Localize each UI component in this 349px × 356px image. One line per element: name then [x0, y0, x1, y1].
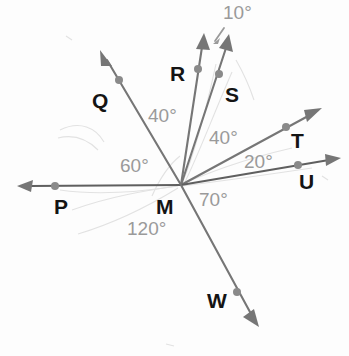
artifact-stroke-14: [166, 344, 174, 346]
artifact-stroke-12: [66, 36, 72, 40]
angle-label-TU: 20°: [244, 152, 273, 171]
ray-U-arrowhead: [325, 154, 341, 166]
ray-Q-arrowhead: [100, 50, 112, 66]
scan-artifacts-group: [58, 36, 328, 346]
ray-W-point-dot: [233, 288, 241, 296]
point-label-W: W: [207, 290, 227, 311]
ray-Q-point-dot: [115, 76, 123, 84]
ray-P-arrowhead: [17, 180, 33, 192]
angle-label-PQ: 60°: [120, 156, 149, 175]
ray-W-arrowhead: [243, 309, 259, 327]
point-label-Q: Q: [92, 90, 108, 111]
angle-label-QR: 40°: [148, 106, 177, 125]
artifact-stroke-5: [60, 186, 178, 193]
ray-P-point-dot: [51, 182, 59, 190]
diagram-svg: [0, 0, 349, 356]
artifact-stroke-2: [58, 137, 98, 150]
ray-R-point-dot: [194, 65, 202, 73]
ray-S-arrowhead: [219, 34, 233, 52]
angle-label-ST: 40°: [209, 128, 238, 147]
ray-R-arrowhead: [196, 33, 210, 50]
geometry-diagram-canvas: P Q R S T U W M 40° 40° 60° 20° 70° 120°…: [0, 0, 349, 356]
ray-U-point-dot: [294, 161, 302, 169]
angle-RS-pointer-group: [213, 28, 224, 44]
ray-T-point-dot: [282, 123, 290, 131]
angle-label-RS: 10°: [223, 3, 252, 22]
artifact-stroke-13: [322, 176, 328, 180]
angle-label-PW: 120°: [127, 219, 166, 238]
ray-T-arrowhead: [304, 108, 322, 122]
ray-P-group: [17, 180, 181, 192]
point-label-M: M: [156, 196, 174, 217]
point-label-R: R: [170, 63, 185, 84]
point-label-U: U: [299, 171, 314, 192]
ray-S-point-dot: [215, 70, 223, 78]
point-label-T: T: [291, 130, 304, 151]
angle-label-UW: 70°: [199, 190, 228, 209]
point-label-P: P: [54, 196, 68, 217]
point-label-S: S: [225, 84, 239, 105]
ray-S-group: [181, 34, 233, 185]
